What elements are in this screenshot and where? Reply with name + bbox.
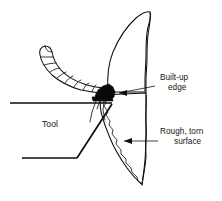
built-up-edge-label-line1: Built-up (160, 73, 189, 82)
cutting-tool (10, 103, 112, 158)
chip-curl (40, 46, 108, 93)
diagram-canvas: Built-up edge Rough, torn surface Tool (0, 0, 222, 201)
built-up-edge-diagram: Built-up edge Rough, torn surface Tool (0, 0, 222, 201)
tool-label: Tool (42, 119, 58, 129)
rough-torn-surface-label-line1: Rough, torn (160, 127, 204, 136)
rough-torn-surface-label-line2: surface (174, 137, 202, 146)
built-up-edge-label-line2: edge (168, 83, 187, 92)
